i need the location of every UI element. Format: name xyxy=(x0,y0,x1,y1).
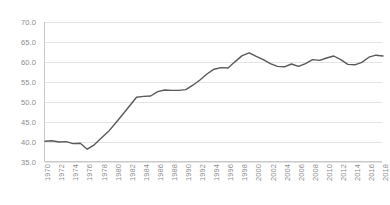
plot-area xyxy=(44,22,382,162)
x-tick-label: 1994 xyxy=(212,164,221,181)
x-tick-label: 2008 xyxy=(310,164,319,181)
x-axis: 1970197219741976197819801982198419861988… xyxy=(44,164,382,204)
x-tick-label: 1976 xyxy=(85,164,94,181)
x-tick-label: 1980 xyxy=(113,164,122,181)
y-tick-label: 35.0 xyxy=(21,158,36,167)
line-chart: 70.065.060.055.050.045.040.035.0 1970197… xyxy=(0,0,390,205)
x-tick-label: 2016 xyxy=(367,164,376,181)
x-tick-label: 2002 xyxy=(268,164,277,181)
x-tick-label: 1998 xyxy=(240,164,249,181)
x-tick-label: 1978 xyxy=(99,164,108,181)
y-tick-label: 55.0 xyxy=(21,78,36,87)
x-tick-label: 2000 xyxy=(254,164,263,181)
x-tick-label: 2012 xyxy=(338,164,347,181)
gridline xyxy=(45,162,382,163)
series-line-group xyxy=(45,22,383,162)
y-tick-label: 60.0 xyxy=(21,58,36,67)
y-tick-label: 65.0 xyxy=(21,38,36,47)
y-tick-label: 40.0 xyxy=(21,138,36,147)
x-tick-label: 1970 xyxy=(43,164,52,181)
x-tick-label: 2018 xyxy=(381,164,390,181)
y-tick-label: 50.0 xyxy=(21,98,36,107)
x-tick-label: 1990 xyxy=(184,164,193,181)
x-tick-label: 1982 xyxy=(127,164,136,181)
x-tick-label: 1986 xyxy=(155,164,164,181)
x-tick-label: 2014 xyxy=(353,164,362,181)
x-tick-label: 2010 xyxy=(324,164,333,181)
x-tick-label: 1996 xyxy=(226,164,235,181)
x-tick-label: 1972 xyxy=(57,164,66,181)
y-tick-label: 45.0 xyxy=(21,118,36,127)
x-tick-label: 1974 xyxy=(71,164,80,181)
x-tick-label: 1984 xyxy=(141,164,150,181)
series-line xyxy=(45,53,383,149)
x-tick-label: 1988 xyxy=(169,164,178,181)
x-tick-label: 1992 xyxy=(198,164,207,181)
x-tick-label: 2006 xyxy=(296,164,305,181)
y-tick-label: 70.0 xyxy=(21,18,36,27)
y-axis: 70.065.060.055.050.045.040.035.0 xyxy=(0,22,40,162)
x-tick-label: 2004 xyxy=(282,164,291,181)
